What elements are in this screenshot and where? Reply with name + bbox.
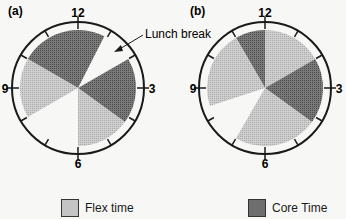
clock-a-hour-12: 12 — [71, 6, 85, 20]
legend-core-label: Core Time — [272, 201, 327, 215]
core-swatch — [248, 199, 266, 217]
clock-b-hour-6: 6 — [262, 157, 269, 171]
flexitime-diagram: (a) 12 3 6 9 Lunch break (b) 12 3 6 9 — [0, 0, 346, 219]
clock-a — [7, 17, 149, 159]
clock-b — [194, 17, 336, 159]
hour-tick — [129, 55, 135, 59]
clock-b-hour-12: 12 — [258, 6, 272, 20]
panel-a-label: (a) — [8, 4, 23, 18]
hour-tick — [295, 139, 299, 145]
lunch-break-annotation: Lunch break — [145, 27, 212, 41]
flex-swatch — [61, 199, 79, 217]
legend-flex: Flex time — [61, 199, 134, 217]
hour-tick — [208, 118, 214, 122]
hour-tick — [45, 31, 49, 37]
hour-tick — [208, 55, 214, 59]
hour-tick — [295, 31, 299, 37]
clock-a-hour-9: 9 — [2, 82, 9, 96]
hour-tick — [21, 55, 27, 59]
arrow-head-icon — [114, 45, 123, 52]
clock-a-hour-6: 6 — [75, 157, 82, 171]
clock-b-hour-9: 9 — [190, 82, 197, 96]
hour-tick — [108, 139, 112, 145]
legend-flex-label: Flex time — [85, 201, 134, 215]
clock-b-hour-3: 3 — [336, 82, 343, 96]
hour-tick — [232, 139, 236, 145]
hour-tick — [21, 118, 27, 122]
hour-tick — [108, 31, 112, 37]
hour-tick — [129, 118, 135, 122]
hour-tick — [232, 31, 236, 37]
clock-a-hour-3: 3 — [149, 82, 156, 96]
hour-tick — [316, 55, 322, 59]
hour-tick — [45, 139, 49, 145]
legend-core: Core Time — [248, 199, 327, 217]
panel-b-label: (b) — [190, 4, 205, 18]
hour-tick — [316, 118, 322, 122]
